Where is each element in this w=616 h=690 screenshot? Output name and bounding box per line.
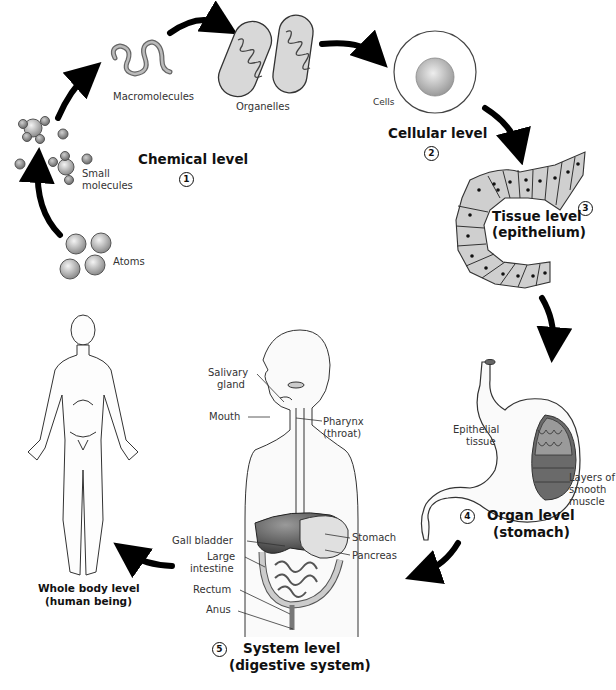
level-number-1: 1	[179, 172, 194, 187]
label-large-intestine-1: Large	[207, 551, 235, 563]
digestive-system-illustration	[245, 330, 358, 637]
level-subtitle-whole-body: (human being)	[45, 595, 132, 608]
cell-illustration	[394, 31, 476, 113]
arrow-macromolecules-to-organelles	[170, 20, 222, 33]
level-number-4: 4	[460, 509, 475, 524]
label-mouth: Mouth	[209, 411, 240, 423]
label-rectum: Rectum	[193, 584, 231, 596]
arrow-organ-to-system	[422, 543, 458, 573]
level-subtitle-tissue: (epithelium)	[492, 224, 586, 240]
arrow-cells-to-tissue	[485, 108, 518, 148]
level-subtitle-organ: (stomach)	[493, 524, 570, 540]
label-atoms: Atoms	[113, 256, 145, 268]
label-salivary-1: Salivary	[208, 367, 248, 379]
label-stomach: Stomach	[352, 532, 396, 544]
level-number-5: 5	[212, 642, 227, 657]
label-small-molecules-1: Small	[82, 168, 110, 180]
label-cells: Cells	[373, 96, 395, 108]
level-subtitle-system: (digestive system)	[229, 657, 371, 673]
arrow-molecules-to-macromolecules	[58, 74, 88, 118]
small-molecules-illustration	[15, 117, 92, 185]
human-body-illustration	[28, 315, 138, 575]
atoms-illustration	[60, 233, 111, 279]
arrow-tissue-to-organ	[542, 298, 553, 345]
arrow-atoms-to-molecules	[38, 165, 60, 235]
label-pancreas: Pancreas	[352, 550, 397, 562]
label-large-intestine-2: intestine	[190, 563, 234, 575]
label-pharynx-1: Pharynx	[323, 416, 364, 428]
label-epithelial-1: Epithelial	[453, 424, 499, 436]
level-title-chemical: Chemical level	[138, 151, 248, 167]
arrow-system-to-body	[128, 553, 172, 566]
label-anus: Anus	[206, 604, 231, 616]
label-muscle-1: Layers of	[569, 472, 615, 484]
arrow-organelles-to-cells	[322, 43, 375, 55]
label-gall-bladder: Gall bladder	[172, 535, 233, 547]
level-title-cellular: Cellular level	[388, 125, 487, 141]
level-title-tissue: Tissue level	[492, 208, 582, 224]
level-title-whole-body: Whole body level	[38, 582, 140, 595]
label-epithelial-2: tissue	[466, 436, 496, 448]
level-title-system: System level	[243, 640, 340, 656]
label-salivary-2: gland	[217, 379, 245, 391]
label-macromolecules: Macromolecules	[113, 91, 194, 103]
label-pharynx-2: (throat)	[323, 428, 361, 440]
level-number-3: 3	[578, 201, 593, 216]
level-title-organ: Organ level	[487, 507, 575, 523]
label-small-molecules-2: molecules	[82, 180, 133, 192]
organelles-illustration	[213, 13, 315, 102]
label-organelles: Organelles	[236, 101, 290, 113]
level-number-2: 2	[424, 146, 439, 161]
label-muscle-2: smooth	[569, 484, 606, 496]
